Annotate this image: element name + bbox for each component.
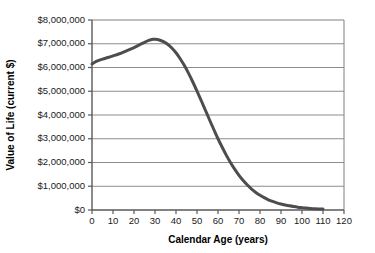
y-tick-label: $0 <box>74 204 85 215</box>
y-tick-label: $1,000,000 <box>37 180 85 191</box>
y-tick-label: $5,000,000 <box>37 85 85 96</box>
y-tick-label: $7,000,000 <box>37 37 85 48</box>
y-tick-label: $4,000,000 <box>37 109 85 120</box>
y-tick-label: $6,000,000 <box>37 61 85 72</box>
y-axis-title: Value of Life (current $) <box>5 59 16 170</box>
x-tick-label: 40 <box>171 215 182 226</box>
x-tick-label: 90 <box>276 215 287 226</box>
y-tick-label: $8,000,000 <box>37 14 85 25</box>
x-tick-label: 110 <box>315 215 330 226</box>
x-tick-label: 80 <box>255 215 266 226</box>
x-tick-label: 120 <box>336 215 352 226</box>
x-tick-label: 60 <box>213 215 224 226</box>
x-tick-label: 10 <box>108 215 119 226</box>
x-axis-title: Calendar Age (years) <box>168 234 268 245</box>
x-tick-label: 0 <box>89 215 94 226</box>
value-of-life-line-chart: $0$1,000,000$2,000,000$3,000,000$4,000,0… <box>0 0 375 253</box>
x-tick-label: 30 <box>150 215 161 226</box>
x-tick-label: 50 <box>192 215 203 226</box>
chart-container: $0$1,000,000$2,000,000$3,000,000$4,000,0… <box>0 0 375 253</box>
y-tick-label: $3,000,000 <box>37 132 85 143</box>
y-axis-tick-labels: $0$1,000,000$2,000,000$3,000,000$4,000,0… <box>37 14 85 215</box>
x-tick-label: 100 <box>294 215 310 226</box>
x-tick-label: 20 <box>129 215 140 226</box>
x-tick-label: 70 <box>234 215 245 226</box>
y-tick-label: $2,000,000 <box>37 156 85 167</box>
